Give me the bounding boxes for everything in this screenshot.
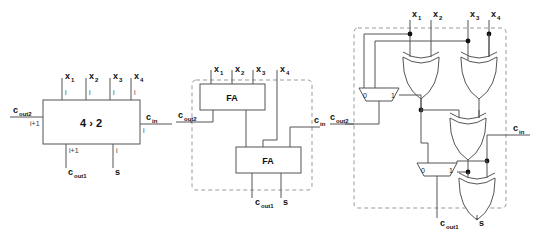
x3-bitwidth: i xyxy=(113,89,115,96)
g-x3-label: x xyxy=(470,9,475,19)
junction-x1 xyxy=(408,32,413,37)
mux-upper-in1-label: 1 xyxy=(391,92,395,99)
g-wire-cin xyxy=(487,135,530,161)
g-cout2-subscript: out2 xyxy=(336,118,349,124)
s-label: s xyxy=(115,167,120,177)
g-wire-cin-to-muxlower xyxy=(457,161,487,163)
fa-cin-label: c xyxy=(314,115,319,125)
fa-cout2-label: c xyxy=(178,110,183,120)
mux-upper-in0-label: 0 xyxy=(363,92,367,99)
junction-x3 xyxy=(466,39,471,44)
g-x3-subscript: 3 xyxy=(476,15,480,21)
fa-input-x4: x 4 xyxy=(280,64,290,76)
fa-x4-label: x xyxy=(280,64,285,74)
xor-gate-b xyxy=(461,52,497,99)
fa-x1-subscript: 1 xyxy=(220,70,224,76)
x4-label: x xyxy=(134,71,139,81)
x4-subscript: 4 xyxy=(140,77,144,83)
fa-cout1-label: c xyxy=(255,197,260,207)
block-input-x1: x 1 i xyxy=(65,71,75,96)
s-bitwidth: i xyxy=(116,147,118,154)
block-port-cin: c in i xyxy=(143,112,158,134)
x1-label: x xyxy=(65,71,70,81)
g-x4-label: x xyxy=(491,9,496,19)
fa-wire-cin xyxy=(290,127,320,147)
g-cout2-label: c xyxy=(330,112,335,122)
g-cout1-subscript: out1 xyxy=(446,224,459,230)
g-x1-label: x xyxy=(412,9,417,19)
g-x2-label: x xyxy=(433,9,438,19)
g-x1-subscript: 1 xyxy=(418,15,422,21)
cout1-bitwidth: i+1 xyxy=(69,147,79,154)
x3-subscript: 3 xyxy=(119,77,123,83)
fa-x3-label: x xyxy=(256,64,261,74)
cout1-subscript: out1 xyxy=(74,173,87,179)
g-input-x2: x 2 xyxy=(433,9,443,21)
fa-top-label: FA xyxy=(226,93,238,103)
fa-input-x1: x 1 xyxy=(214,64,224,76)
g-port-cout2: c out2 xyxy=(330,112,349,124)
mux-lower-in0-label: 0 xyxy=(421,167,425,174)
x2-bitwidth: i xyxy=(89,89,91,96)
fa-port-cin: c in xyxy=(314,115,326,127)
cout2-bitwidth: i+1 xyxy=(30,120,40,127)
g-cin-label: c xyxy=(513,123,518,133)
panel-full-adder: FA FA x 1 x 2 x 3 x 4 c out xyxy=(176,64,326,209)
cin-subscript: in xyxy=(152,118,158,124)
block-port-cout2: c out2 i+1 xyxy=(13,105,40,127)
x4-bitwidth: i xyxy=(134,89,136,96)
g-wire-xora-to-muxlower xyxy=(421,110,428,163)
x3-label: x xyxy=(113,71,118,81)
cout2-label: c xyxy=(13,105,18,115)
g-output-cout1: c out1 xyxy=(440,218,459,230)
x2-label: x xyxy=(89,71,94,81)
block-input-x4: x 4 i xyxy=(134,71,144,96)
cin-label: c xyxy=(146,112,151,122)
g-wire-cout2 xyxy=(345,101,379,124)
fa-port-cout2: c out2 xyxy=(178,110,197,122)
fa-x2-label: x xyxy=(235,64,240,74)
block-output-cout1: i+1 c out1 xyxy=(68,147,87,179)
g-s-label: s xyxy=(479,218,484,228)
g-wire-xora-to-xorc xyxy=(421,110,459,118)
gates-dashed-boundary xyxy=(354,28,506,208)
fa-x4-subscript: 4 xyxy=(286,70,290,76)
cout2-subscript: out2 xyxy=(19,111,32,117)
fa-input-x2: x 2 xyxy=(235,64,245,76)
block-label: 4 › 2 xyxy=(80,117,102,129)
panel-gate-level: x 1 x 2 x 3 x 4 xyxy=(330,9,530,230)
fa-x1-label: x xyxy=(214,64,219,74)
fa-cout1-subscript: out1 xyxy=(261,203,274,209)
cin-bitwidth: i xyxy=(143,127,145,134)
xor-gate-a xyxy=(403,52,439,99)
fa-x2-subscript: 2 xyxy=(241,70,245,76)
block-output-s: i s xyxy=(115,147,120,177)
fa-cin-subscript: in xyxy=(320,121,326,127)
g-input-x1: x 1 xyxy=(412,9,422,21)
xor-gate-d xyxy=(459,173,495,220)
x2-subscript: 2 xyxy=(95,77,99,83)
figure-canvas: 4 › 2 x 1 i x 2 i x 3 i x 4 i c xyxy=(0,0,546,240)
g-input-x4: x 4 xyxy=(491,9,501,21)
fa-s-label: s xyxy=(283,197,288,207)
panel-block-symbol: 4 › 2 x 1 i x 2 i x 3 i x 4 i c xyxy=(10,71,172,179)
fa-x3-subscript: 3 xyxy=(262,70,266,76)
g-x2-subscript: 2 xyxy=(439,15,443,21)
g-output-s: s xyxy=(479,218,484,228)
fa-input-x3: x 3 xyxy=(256,64,266,76)
block-input-x3: x 3 i xyxy=(113,71,123,96)
fa-output-cout1: c out1 xyxy=(255,197,274,209)
fa-cout2-subscript: out2 xyxy=(184,116,197,122)
fa-output-s: s xyxy=(283,197,288,207)
compressor-diagram: 4 › 2 x 1 i x 2 i x 3 i x 4 i c xyxy=(0,0,546,240)
cout1-label: c xyxy=(68,167,73,177)
block-input-x2: x 2 i xyxy=(89,71,99,96)
g-cout1-label: c xyxy=(440,218,445,228)
g-port-cin: c in xyxy=(513,123,525,135)
g-input-x3: x 3 xyxy=(470,9,480,21)
x1-bitwidth: i xyxy=(65,89,67,96)
fa-bottom-label: FA xyxy=(262,156,274,166)
g-cin-subscript: in xyxy=(519,129,525,135)
mux-lower-in1-label: 1 xyxy=(449,167,453,174)
g-x4-subscript: 4 xyxy=(497,15,501,21)
